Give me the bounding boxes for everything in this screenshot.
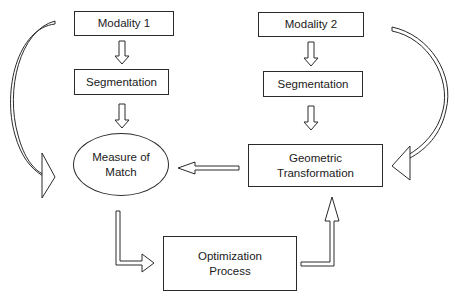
curved-arrow-icon — [11, 21, 55, 176]
arrowhead-icon — [42, 153, 55, 198]
arrow-down-icon — [115, 41, 129, 64]
measure-of-match-ellipse: Measure of Match — [73, 133, 169, 196]
segmentation-1-box: Segmentation — [74, 69, 169, 95]
geometric-transformation-line1: Geometric — [277, 151, 354, 166]
geometric-transformation-line2: Transformation — [277, 166, 354, 181]
arrow-down-icon — [115, 104, 129, 128]
modality-2-label: Modality 2 — [285, 17, 337, 32]
elbow-arrow-icon — [301, 197, 339, 266]
arrow-left-icon — [178, 162, 239, 174]
curved-arrow-icon — [392, 27, 448, 158]
geometric-transformation-box: Geometric Transformation — [248, 144, 383, 187]
arrow-down-icon — [304, 42, 318, 66]
segmentation-2-label: Segmentation — [278, 77, 349, 92]
optimization-process-line2: Process — [198, 264, 262, 279]
elbow-arrow-icon — [116, 211, 154, 272]
modality-1-label: Modality 1 — [98, 16, 150, 31]
modality-1-box: Modality 1 — [74, 11, 174, 36]
segmentation-1-label: Segmentation — [86, 75, 157, 90]
modality-2-box: Modality 2 — [258, 12, 364, 37]
measure-of-match-line1: Measure of — [92, 150, 150, 165]
optimization-process-box: Optimization Process — [163, 236, 297, 291]
measure-of-match-line2: Match — [92, 165, 150, 180]
arrow-down-icon — [304, 106, 318, 130]
optimization-process-line1: Optimization — [198, 249, 262, 264]
segmentation-2-box: Segmentation — [263, 71, 363, 97]
arrowhead-icon — [392, 146, 410, 180]
